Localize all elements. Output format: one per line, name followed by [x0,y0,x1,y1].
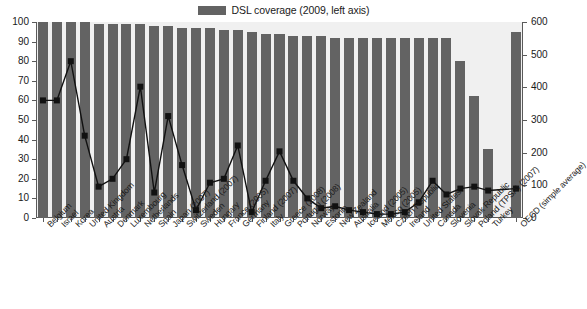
left-tick-label: 30 [18,154,29,164]
line-marker [54,97,60,103]
legend-swatch-dsl-coverage [198,6,226,15]
line-marker [68,58,74,64]
plot-area: 0102030405060708090100 01002003004005006… [36,22,523,218]
left-tick-label: 10 [18,193,29,203]
right-tick-label: 200 [531,148,548,158]
line-marker [179,162,185,168]
left-tick-mark [32,81,36,82]
x-axis-category-labels: BelgiumIsraelKoreaUnited KingdomAustriaD… [36,220,523,309]
left-tick-label: 20 [18,174,29,184]
left-tick-mark [32,179,36,180]
left-tick-label: 40 [18,135,29,145]
right-tick-mark [523,87,527,88]
right-tick-mark [523,153,527,154]
left-tick-label: 90 [18,37,29,47]
line-marker [96,184,102,190]
left-tick-mark [32,42,36,43]
line-marker [40,97,46,103]
right-tick-mark [523,22,527,23]
line-marker [207,180,213,186]
left-tick-mark [32,218,36,219]
left-tick-label: 50 [18,115,29,125]
left-tick-label: 100 [12,17,29,27]
right-tick-mark [523,55,527,56]
line-path [43,61,516,214]
left-tick-mark [32,140,36,141]
chart-legend: DSL coverage (2009, left axis) [0,2,567,18]
line-marker [123,156,129,162]
plot-inner: 0102030405060708090100 01002003004005006… [36,22,523,218]
left-tick-mark [32,61,36,62]
left-tick-label: 70 [18,76,29,86]
line-marker [235,142,241,148]
line-marker [165,113,171,119]
line-series-layer [36,22,523,218]
legend-label-dsl-coverage: DSL coverage (2009, left axis) [232,4,370,16]
left-tick-mark [32,120,36,121]
right-tick-label: 400 [531,82,548,92]
line-marker [277,148,283,154]
left-tick-label: 80 [18,56,29,66]
line-marker [82,133,88,139]
right-tick-mark [523,120,527,121]
left-tick-label: 60 [18,95,29,105]
right-tick-label: 500 [531,50,548,60]
line-marker [137,84,143,90]
left-tick-label: 0 [23,213,29,223]
left-tick-mark [32,22,36,23]
line-marker [263,178,269,184]
right-tick-label: 100 [531,180,548,190]
line-marker [110,176,116,182]
right-tick-label: 300 [531,115,548,125]
left-tick-mark [32,159,36,160]
left-tick-mark [32,198,36,199]
right-tick-label: 600 [531,17,548,27]
line-marker [290,178,296,184]
line-marker [471,184,477,190]
left-tick-mark [32,100,36,101]
